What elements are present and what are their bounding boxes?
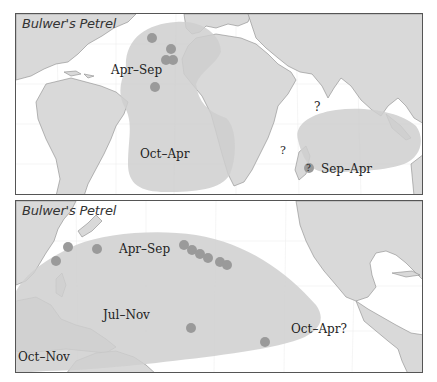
panel-title: Bulwer's Petrel <box>22 203 116 218</box>
range-label-apr-sep: Apr–Sep <box>118 242 170 256</box>
range-label-jul-nov: Jul–Nov <box>101 308 150 322</box>
range-label-oct-apr: Oct–Apr? <box>291 322 347 336</box>
range-label-oct-apr: Oct–Apr <box>140 147 190 161</box>
map-panel-atlantic-indian: Bulwer's Petrel Apr–Sep Oct–Apr Sep–Apr … <box>15 13 423 195</box>
land-japan <box>78 215 102 237</box>
question-mark: ? <box>306 163 311 173</box>
tracking-point <box>186 323 196 333</box>
range-label-apr-sep: Apr–Sep <box>110 63 162 77</box>
question-mark: ? <box>314 100 320 114</box>
land-central-america <box>356 301 423 373</box>
map-pacific: Apr–Sep Jul–Nov Oct–Nov Oct–Apr? <box>16 201 423 373</box>
tracking-point <box>63 242 73 252</box>
range-label-sep-apr: Sep–Apr <box>321 162 372 176</box>
tracking-point <box>222 260 232 270</box>
map-labels: Apr–Sep Oct–Apr Sep–Apr ? ? ? <box>16 14 423 195</box>
tracking-point <box>92 244 102 254</box>
question-mark: ? <box>280 144 286 157</box>
map-panel-pacific: Apr–Sep Jul–Nov Oct–Nov Oct–Apr? Bulwer'… <box>15 200 423 373</box>
tracking-point <box>260 337 270 347</box>
tracking-point <box>51 256 61 266</box>
tracking-point <box>203 253 213 263</box>
range-label-oct-nov: Oct–Nov <box>18 350 70 364</box>
